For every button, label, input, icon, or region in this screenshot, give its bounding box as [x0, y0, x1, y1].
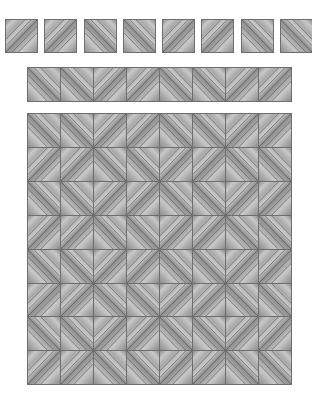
- diagonal-lines-backward-icon: [28, 250, 60, 283]
- diagonal-lines-forward-icon: [127, 317, 159, 350]
- diagonal-lines-forward-icon: [226, 250, 258, 283]
- grid-tile: [60, 283, 94, 317]
- diagonal-lines-forward-icon: [61, 284, 93, 316]
- diagonal-lines-forward-icon: [259, 182, 291, 215]
- diagonal-lines-forward-icon: [61, 148, 93, 181]
- grid-tile: [60, 215, 94, 250]
- diagonal-lines-backward-icon: [193, 182, 225, 215]
- grid-tile: [258, 350, 292, 385]
- grid-tile: [27, 316, 61, 351]
- grid-tile: [93, 113, 127, 148]
- grid-tile: [27, 249, 61, 284]
- grid-tile: [93, 350, 127, 385]
- diagonal-lines-backward-icon: [127, 148, 159, 181]
- grid-tile: [93, 316, 127, 351]
- diagonal-lines-backward-icon: [259, 284, 291, 316]
- diagonal-lines-backward-icon: [94, 351, 126, 384]
- diagonal-lines-forward-icon: [61, 351, 93, 384]
- diagonal-lines-forward-icon: [28, 284, 60, 316]
- diagonal-lines-backward-icon: [226, 351, 258, 384]
- grid-tile: [258, 113, 292, 148]
- diagonal-lines-forward-icon: [94, 250, 126, 283]
- diagonal-lines-backward-icon: [259, 216, 291, 249]
- grid-tile: [192, 113, 226, 148]
- grid-tile: [192, 283, 226, 317]
- grid-tile: [27, 350, 61, 385]
- diagonal-lines-backward-icon: [61, 114, 93, 147]
- grid-tile: [93, 147, 127, 182]
- diagonal-lines-forward-icon: [94, 317, 126, 350]
- diagonal-lines-forward-icon: [28, 216, 60, 249]
- grid-tile: [126, 113, 160, 148]
- grid-tile: [27, 113, 61, 148]
- grid-tile: [159, 283, 193, 317]
- diagonal-lines-backward-icon: [160, 250, 192, 283]
- grid-tile: [126, 316, 160, 351]
- grid-tile: [225, 316, 259, 351]
- grid-tile: [60, 316, 94, 351]
- diagonal-lines-forward-icon: [94, 182, 126, 215]
- diagonal-lines-backward-icon: [259, 351, 291, 384]
- grid-tile: [93, 283, 127, 317]
- grid-tile: [159, 249, 193, 284]
- grid-tile: [126, 181, 160, 216]
- grid-tile: [258, 316, 292, 351]
- diagonal-lines-forward-icon: [160, 148, 192, 181]
- grid-tile: [27, 181, 61, 216]
- grid-tile: [159, 147, 193, 182]
- diagonal-lines-forward-icon: [259, 114, 291, 147]
- diagonal-lines-backward-icon: [127, 351, 159, 384]
- diagonal-lines-forward-icon: [193, 351, 225, 384]
- grid-tile: [27, 147, 61, 182]
- grid-tile: [225, 283, 259, 317]
- grid-tile: [192, 316, 226, 351]
- grid-tile: [258, 215, 292, 250]
- grid-tile: [159, 215, 193, 250]
- diagonal-lines-backward-icon: [193, 114, 225, 147]
- diagonal-lines-backward-icon: [28, 317, 60, 350]
- diagonal-lines-backward-icon: [226, 216, 258, 249]
- diagonal-lines-backward-icon: [226, 284, 258, 316]
- diagonal-lines-forward-icon: [94, 114, 126, 147]
- grid-tile: [159, 181, 193, 216]
- diagonal-lines-backward-icon: [28, 114, 60, 147]
- diagonal-lines-backward-icon: [127, 216, 159, 249]
- diagonal-lines-backward-icon: [61, 182, 93, 215]
- diagonal-lines-backward-icon: [160, 114, 192, 147]
- grid-tile: [60, 113, 94, 148]
- diagonal-lines-backward-icon: [226, 148, 258, 181]
- diagonal-lines-backward-icon: [94, 284, 126, 316]
- grid-tile: [60, 350, 94, 385]
- grid-tile: [60, 147, 94, 182]
- diagonal-lines-forward-icon: [160, 284, 192, 316]
- grid-tile: [225, 350, 259, 385]
- grid-tile: [225, 181, 259, 216]
- grid-tile: [126, 283, 160, 317]
- grid-tile: [192, 147, 226, 182]
- grid-tile: [225, 113, 259, 148]
- diagonal-lines-forward-icon: [193, 216, 225, 249]
- diagonal-lines-forward-icon: [127, 114, 159, 147]
- grid-tile: [225, 249, 259, 284]
- diagonal-lines-forward-icon: [160, 351, 192, 384]
- diagonal-lines-backward-icon: [28, 182, 60, 215]
- grid-tile: [225, 147, 259, 182]
- grid-tile: [258, 147, 292, 182]
- grid-tile: [192, 249, 226, 284]
- diagonal-lines-backward-icon: [193, 317, 225, 350]
- diagonal-lines-backward-icon: [160, 317, 192, 350]
- grid-tile: [93, 249, 127, 284]
- grid-tile: [60, 181, 94, 216]
- grid-tile: [192, 181, 226, 216]
- diagonal-lines-backward-icon: [193, 250, 225, 283]
- diagonal-lines-forward-icon: [160, 216, 192, 249]
- diagonal-lines-forward-icon: [193, 284, 225, 316]
- diagonal-lines-forward-icon: [193, 148, 225, 181]
- diagonal-lines-forward-icon: [226, 182, 258, 215]
- grid-tile: [192, 350, 226, 385]
- diagonal-lines-forward-icon: [61, 216, 93, 249]
- grid-tile: [60, 249, 94, 284]
- diagonal-lines-backward-icon: [160, 182, 192, 215]
- diagonal-lines-backward-icon: [94, 216, 126, 249]
- grid-tile: [93, 181, 127, 216]
